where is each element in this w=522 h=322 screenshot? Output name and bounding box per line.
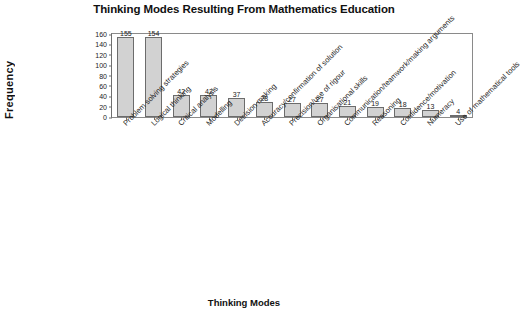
bar: 155 <box>117 37 134 117</box>
y-tick-label: 100 <box>95 62 112 69</box>
y-tick-label: 120 <box>95 51 112 58</box>
bar-value-label: 155 <box>120 30 132 37</box>
y-tick-label: 20 <box>99 103 112 110</box>
y-tick-label: 160 <box>95 31 112 38</box>
y-tick-label: 40 <box>99 93 112 100</box>
y-tick-label: 140 <box>95 41 112 48</box>
chart-title: Thinking Modes Resulting From Mathematic… <box>0 3 488 15</box>
x-axis-title: Thinking Modes <box>0 297 488 308</box>
y-tick-label: 80 <box>99 72 112 79</box>
y-tick-label: 0 <box>103 114 112 121</box>
bar-value-label: 154 <box>148 30 160 37</box>
y-tick-label: 60 <box>99 82 112 89</box>
bar-value-label: 37 <box>233 91 241 98</box>
y-axis-title: Frequency <box>2 40 16 140</box>
